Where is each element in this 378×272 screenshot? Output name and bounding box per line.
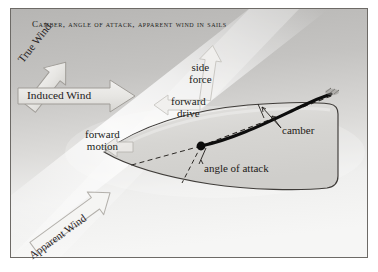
mast-point <box>197 142 206 151</box>
diagram-canvas <box>0 0 378 272</box>
sail-diagram-figure: Camber, angle of attack, apparent wind i… <box>0 0 378 272</box>
